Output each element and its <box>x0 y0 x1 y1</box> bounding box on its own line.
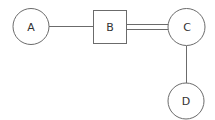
node-c: C <box>168 9 205 46</box>
node-b-label: B <box>106 21 114 34</box>
node-a-label: A <box>27 21 35 34</box>
node-a: A <box>13 9 49 45</box>
node-b: B <box>94 11 127 44</box>
node-d-label: D <box>182 95 190 108</box>
diagram-canvas: A B C D <box>0 0 215 120</box>
node-c-label: C <box>183 21 191 34</box>
node-d: D <box>168 83 204 119</box>
